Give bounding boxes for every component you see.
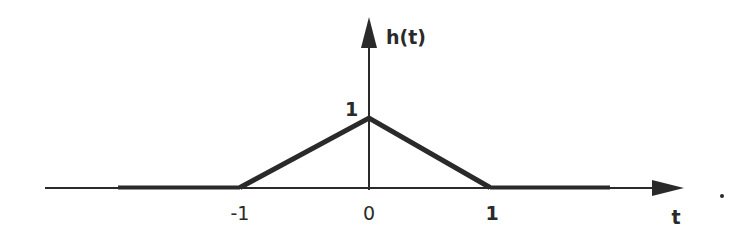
h-axis-arrowhead-icon (361, 17, 377, 48)
t-axis-arrowhead-icon (652, 180, 684, 196)
h-axis (361, 17, 377, 190)
tick-label-1: 1 (485, 202, 498, 224)
tick-label-neg1: -1 (231, 202, 250, 224)
tick-label-0: 0 (363, 202, 375, 224)
h-function-curve (118, 118, 610, 188)
x-axis-label: t (671, 206, 680, 228)
peak-value-label: 1 (345, 98, 358, 120)
trailing-period-mark (720, 194, 724, 198)
triangular-pulse-diagram: h(t) 1 -1 0 1 t (0, 0, 752, 239)
y-axis-label: h(t) (386, 26, 426, 48)
